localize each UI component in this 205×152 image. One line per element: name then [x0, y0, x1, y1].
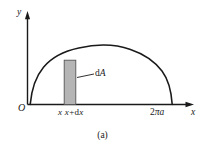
leader-segment — [77, 74, 94, 78]
y-axis-arrowhead — [25, 11, 30, 19]
strip-tick-x1: x — [58, 107, 62, 117]
x-axis — [28, 102, 195, 108]
end-tick-a: a — [160, 107, 165, 117]
shaded-strip-dA — [64, 60, 76, 104]
x-axis-label: x — [191, 108, 195, 118]
strip-tick-label: x x+dx — [58, 108, 84, 117]
y-axis-label: y — [17, 8, 21, 18]
differential-area-label: dA — [95, 69, 106, 79]
dA-label-A: A — [100, 68, 106, 78]
end-tick-label: 2πa — [150, 108, 164, 118]
strip-tick-x3: x — [79, 107, 83, 117]
strip-rectangle — [64, 60, 76, 104]
origin-label: O — [18, 103, 25, 113]
figure-caption: (a) — [0, 130, 205, 140]
dA-leader-line — [77, 74, 94, 78]
y-axis — [25, 11, 30, 105]
figure-container: y x O dA x x+dx 2πa (a) — [0, 0, 205, 152]
